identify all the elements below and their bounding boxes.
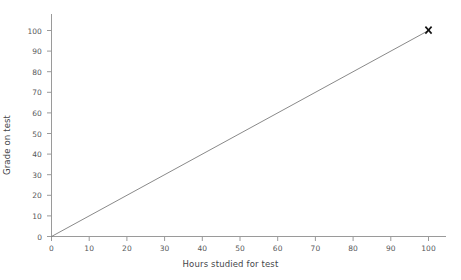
y-tick-label-70: 70: [16, 88, 42, 97]
y-tick-label-10: 10: [16, 211, 42, 220]
x-tick-label-30: 30: [150, 244, 180, 253]
x-tick-label-40: 40: [187, 244, 217, 253]
y-tick-label-20: 20: [16, 191, 42, 200]
y-tick-label-40: 40: [16, 150, 42, 159]
x-tick-label-90: 90: [376, 244, 406, 253]
x-tick-label-100: 100: [414, 244, 444, 253]
y-tick-label-90: 90: [16, 47, 42, 56]
x-tick-label-0: 0: [37, 244, 67, 253]
x-axis-title: Hours studied for test: [0, 259, 461, 269]
x-tick-label-20: 20: [112, 244, 142, 253]
y-tick-label-30: 30: [16, 170, 42, 179]
y-tick-label-50: 50: [16, 129, 42, 138]
x-tick-label-80: 80: [338, 244, 368, 253]
chart-container: 100 90 80 70 60 50 40 30 20 10 0 0 10 20…: [0, 0, 461, 280]
y-tick-label-80: 80: [16, 67, 42, 76]
data-point-marker-x: [425, 27, 431, 34]
x-tick-label-70: 70: [300, 244, 330, 253]
x-tick-marks: [52, 237, 429, 242]
plot-canvas: [0, 0, 461, 280]
y-tick-label-0: 0: [16, 232, 42, 241]
y-axis-title: Grade on test: [2, 115, 12, 175]
x-tick-label-50: 50: [225, 244, 255, 253]
x-tick-label-60: 60: [263, 244, 293, 253]
data-line-series-0: [52, 31, 429, 237]
x-tick-label-10: 10: [74, 244, 104, 253]
y-tick-marks: [47, 31, 52, 237]
y-tick-label-100: 100: [16, 26, 42, 35]
y-tick-label-60: 60: [16, 108, 42, 117]
